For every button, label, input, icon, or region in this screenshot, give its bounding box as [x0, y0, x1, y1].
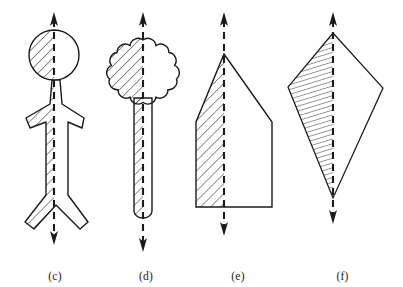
caption-f: (f) [282, 270, 403, 283]
caption-c: (c) [0, 270, 110, 283]
kite-drawing [282, 0, 403, 287]
figure-panel-c: (c) [0, 0, 110, 287]
hatch-fill-left-e [196, 54, 272, 207]
figure-panel-f: (f) [282, 0, 403, 287]
pentagon-drawing [186, 0, 290, 287]
caption-e: (e) [186, 270, 290, 283]
caption-d: (d) [98, 270, 194, 283]
mace-drawing [98, 0, 194, 287]
figure-panel-d: (d) [98, 0, 194, 287]
figure-panel-e: (e) [186, 0, 290, 287]
stick-figure-drawing [0, 0, 110, 287]
hatch-fill-left-f [288, 33, 383, 198]
figure-board: (c) [0, 0, 403, 287]
arrowhead-down-icon [50, 231, 58, 245]
